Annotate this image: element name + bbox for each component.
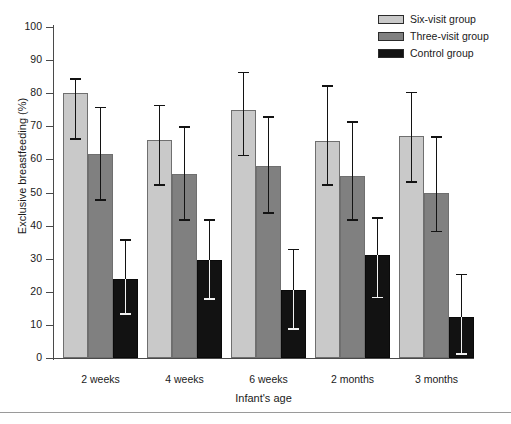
error-bar-line: [75, 80, 77, 140]
error-bar-cap-upper: [288, 249, 299, 251]
figure-container: Six-visit group Three-visit group Contro…: [0, 0, 511, 424]
legend-swatch-six-visit-group: [378, 15, 404, 24]
error-bar-cap-lower: [95, 199, 106, 201]
bar-group: 6 weeks: [231, 27, 306, 358]
error-bar-line-inner: [209, 260, 211, 300]
error-bar-cap-lower: [431, 231, 442, 233]
x-axis-title: Infant's age: [53, 392, 474, 404]
x-tick-label: 2 weeks: [63, 373, 138, 385]
error-bar-line: [352, 123, 354, 221]
y-tick-label-20: 20: [12, 286, 42, 296]
legend-label-six-visit-group: Six-visit group: [410, 14, 476, 25]
error-bar-cap-upper: [154, 105, 165, 107]
y-tick-label-10: 10: [12, 319, 42, 329]
error-bar-cap-upper: [431, 136, 442, 138]
x-tick-label: 6 weeks: [231, 373, 306, 385]
error-bar-cap-lower: [372, 297, 383, 299]
bar-group: 2 weeks: [63, 27, 138, 358]
y-axis-title: Exclusive breastfeeding (%): [16, 56, 28, 276]
error-bar-cap-lower: [263, 212, 274, 214]
error-bar-line: [327, 87, 329, 186]
error-bar-cap-lower: [120, 313, 131, 315]
error-bar-line-inner: [293, 290, 295, 330]
error-bar-line: [243, 73, 245, 156]
error-bar-cap-upper: [406, 92, 417, 94]
error-bar-cap-lower: [406, 181, 417, 183]
error-bar-cap-lower: [204, 298, 215, 300]
error-bar-line: [436, 138, 438, 232]
error-bar-line: [268, 118, 270, 214]
error-bar-cap-lower: [70, 138, 81, 140]
plot-area: 2 weeks4 weeks6 weeks2 months3 months: [53, 27, 473, 358]
error-bar-cap-upper: [263, 116, 274, 118]
x-tick-label: 4 weeks: [147, 373, 222, 385]
y-tick-label-100: 100: [12, 21, 42, 31]
error-bar-cap-upper: [204, 219, 215, 221]
error-bar-cap-upper: [95, 107, 106, 109]
error-bar-line-inner: [125, 279, 127, 315]
error-bar-cap-lower: [322, 184, 333, 186]
error-bar-line: [159, 106, 161, 185]
error-bar-cap-lower: [456, 353, 467, 355]
error-bar-cap-upper: [120, 239, 131, 241]
error-bar-line: [411, 93, 413, 182]
error-bar-line-inner: [377, 255, 379, 298]
error-bar-cap-lower: [347, 219, 358, 221]
x-tick-label: 2 months: [315, 373, 390, 385]
bar-group: 4 weeks: [147, 27, 222, 358]
error-bar-line: [184, 128, 186, 221]
error-bar-cap-upper: [322, 85, 333, 87]
x-axis-line: [53, 358, 474, 359]
error-bar-cap-upper: [70, 78, 81, 80]
error-bar-cap-upper: [372, 217, 383, 219]
legend-item-six-visit-group: Six-visit group: [378, 12, 508, 27]
error-bar-cap-upper: [179, 126, 190, 128]
error-bar-line: [100, 108, 102, 201]
error-bar-cap-lower: [238, 155, 249, 157]
error-bar-cap-lower: [179, 219, 190, 221]
bottom-divider: [0, 412, 511, 413]
error-bar-cap-upper: [238, 72, 249, 74]
x-tick-label: 3 months: [399, 373, 474, 385]
error-bar-cap-lower: [154, 184, 165, 186]
bar-group: 3 months: [399, 27, 474, 358]
bar-group: 2 months: [315, 27, 390, 358]
y-tick-0: [46, 358, 54, 359]
y-tick-label-0: 0: [12, 352, 42, 362]
error-bar-line-inner: [461, 317, 463, 355]
error-bar-cap-upper: [347, 121, 358, 123]
error-bar-cap-lower: [288, 328, 299, 330]
error-bar-cap-upper: [456, 274, 467, 276]
